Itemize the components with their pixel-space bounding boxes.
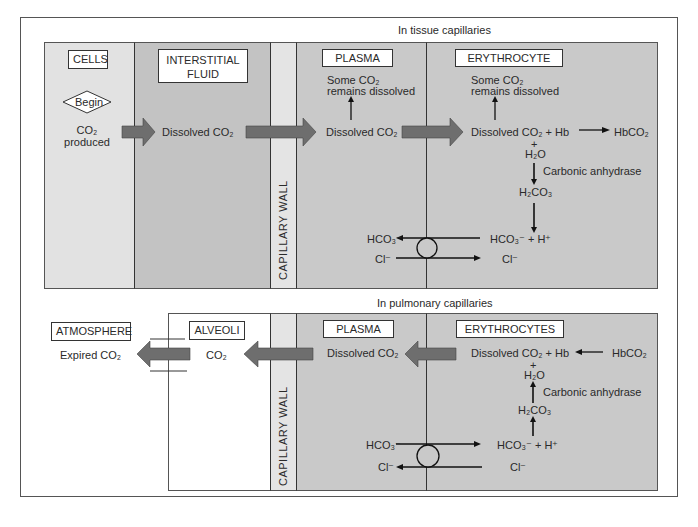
hbco2-reactant: HbCO₂	[612, 347, 647, 359]
erythrocytes-reaction: Dissolved CO₂ + Hb	[471, 347, 569, 359]
flow-arrow-erythrocytes-to-plasma	[405, 341, 456, 367]
pulmonary-carbonic-anhydrase-label: Carbonic anhydrase	[543, 386, 641, 398]
ions-to-h2co3-arrowhead-icon	[530, 416, 536, 422]
pulmonary-arrows-layer	[0, 0, 698, 527]
erythrocytes-h2o: H₂O	[524, 369, 545, 381]
hbco2-to-hb-arrowhead-icon	[575, 349, 582, 355]
flow-arrow-alveoli-to-atmosphere	[137, 341, 190, 367]
pulmonary-plasma-cl: Cl⁻	[378, 461, 394, 473]
erythrocytes-ions: HCO₃⁻ + H⁺	[497, 439, 558, 451]
pulmonary-plasma-hco3: HCO₃⁻	[366, 439, 401, 451]
pulmonary-plasma-dissolved-co2: Dissolved CO₂	[327, 347, 399, 359]
pulmonary-anion-exchanger-icon	[417, 445, 439, 467]
pulmonary-capillary-wall-label: CAPILLARY WALL	[277, 392, 289, 486]
cl-out-arrowhead-icon	[396, 464, 403, 470]
hco3-in-arrowhead-icon	[474, 441, 481, 447]
flow-arrow-plasma-to-alveoli	[244, 341, 313, 367]
erythrocytes-cl: Cl⁻	[510, 461, 526, 473]
h2co3-to-h2o-arrowhead-icon	[530, 381, 536, 387]
erythrocytes-h2co3: H₂CO₃	[518, 404, 551, 416]
